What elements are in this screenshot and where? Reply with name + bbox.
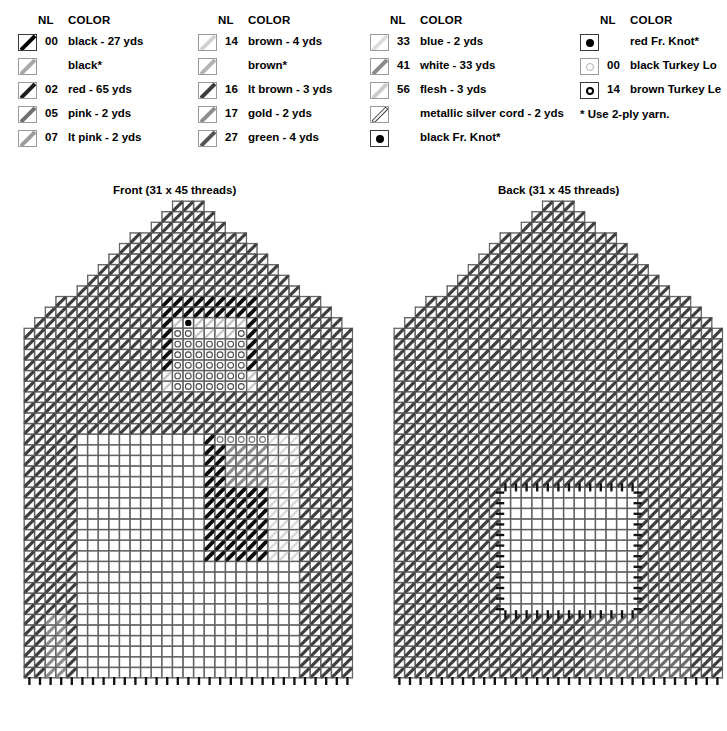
diagonal-stitch-icon [198,130,217,147]
loop-ring [586,87,594,95]
legend-nl-number: 14 [607,83,629,95]
legend-color-label: blue - 2 yds [420,35,483,47]
stitch-bar-outline [371,106,388,123]
chart-canvas-back [392,199,727,692]
diagonal-stitch-icon [198,106,217,123]
diagonal-stitch-icon [18,58,37,75]
legend-color-label: white - 33 yds [420,59,495,71]
stitch-bar [19,130,36,147]
loop-ring [586,63,594,71]
diagonal-stitch-icon [18,106,37,123]
legend-nl-number: 00 [607,59,629,71]
legend-color-label: lt pink - 2 yds [68,131,142,143]
legend-nl-number: 27 [225,131,247,143]
color-legend: NLCOLOR00black - 27 ydsblack*02red - 65 … [0,0,720,168]
diagonal-stitch-icon [18,34,37,51]
legend-color-label: flesh - 3 yds [420,83,486,95]
stitch-bar [371,58,388,75]
turkey-loop-bold-icon [580,82,599,99]
diagonal-stitch-icon [198,34,217,51]
legend-nl-number: 00 [45,35,67,47]
legend-header-nl: NL [218,14,234,26]
stitch-bar [199,82,216,99]
legend-header-nl: NL [600,14,616,26]
legend-nl-number: 14 [225,35,247,47]
diagonal-stitch-icon [198,82,217,99]
legend-header-color: COLOR [248,14,291,26]
turkey-loop-light-icon [580,58,599,75]
legend-color-label: red Fr. Knot* [630,35,699,47]
stitch-bar [19,58,36,75]
legend-color-label: pink - 2 yds [68,107,131,119]
legend-color-label: green - 4 yds [248,131,319,143]
legend-nl-number: 33 [397,35,419,47]
legend-nl-number: 05 [45,107,67,119]
metallic-cord-icon [370,106,389,123]
stitch-bar [199,130,216,147]
legend-nl-number: 56 [397,83,419,95]
diagonal-stitch-icon [18,82,37,99]
legend-footnote: * Use 2-ply yarn. [580,108,669,120]
legend-color-label: black* [68,59,102,71]
stitch-bar [371,34,388,51]
chart-canvas-front [22,199,357,692]
legend-color-label: black Turkey Lo [630,59,717,71]
knot-dot [376,135,384,143]
stitch-bar [199,34,216,51]
legend-color-label: red - 65 yds [68,83,132,95]
legend-nl-number: 41 [397,59,419,71]
diagonal-stitch-icon [370,58,389,75]
stitch-bar [199,58,216,75]
legend-color-label: black Fr. Knot* [420,131,501,143]
diagonal-stitch-icon [18,130,37,147]
stitch-bar [371,82,388,99]
legend-color-label: lt brown - 3 yds [248,83,332,95]
legend-header-nl: NL [390,14,406,26]
legend-header-color: COLOR [420,14,463,26]
legend-nl-number: 16 [225,83,247,95]
chart-title-back: Back (31 x 45 threads) [498,184,619,196]
stitch-bar [19,82,36,99]
legend-nl-number: 07 [45,131,67,143]
diagonal-stitch-icon [370,82,389,99]
legend-color-label: black - 27 yds [68,35,143,47]
stitch-bar [199,106,216,123]
diagonal-stitch-icon [370,34,389,51]
legend-header-color: COLOR [630,14,673,26]
french-knot-icon [370,130,389,147]
french-knot-icon [580,34,599,51]
legend-color-label: gold - 2 yds [248,107,312,119]
stitch-bar [19,106,36,123]
chart-title-front: Front (31 x 45 threads) [113,184,236,196]
stitch-bar [19,34,36,51]
legend-color-label: brown* [248,59,287,71]
legend-header-color: COLOR [68,14,111,26]
legend-color-label: brown Turkey Le [630,83,721,95]
legend-color-label: metallic silver cord - 2 yds [420,107,564,119]
legend-nl-number: 17 [225,107,247,119]
legend-nl-number: 02 [45,83,67,95]
legend-color-label: brown - 4 yds [248,35,322,47]
legend-header-nl: NL [38,14,54,26]
pattern-chart-front [22,199,357,692]
pattern-chart-back [392,199,727,692]
diagonal-stitch-icon [198,58,217,75]
knot-dot [586,39,594,47]
